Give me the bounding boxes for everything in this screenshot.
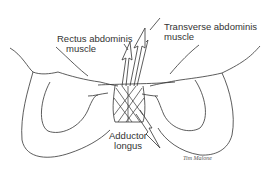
left-pelvis-outer: [22, 72, 110, 157]
adductor-label: Adductor longus: [109, 131, 147, 151]
transverse-leader: [150, 18, 160, 30]
right-iliac-crest: [150, 46, 260, 86]
symphysis-left: [113, 86, 115, 122]
transverse-label: Transverse abdominis muscle: [164, 22, 257, 42]
right-obturator: [155, 80, 205, 131]
pubic-bar-top: [98, 82, 175, 85]
crosshatch: [114, 86, 144, 122]
right-pelvis-outer: [158, 73, 233, 155]
anatomy-diagram: Rectus abdominis muscle Transverse abdom…: [0, 0, 270, 172]
artist-signature: Tim Malone: [183, 155, 212, 161]
transverse-label-line2: muscle: [164, 32, 257, 42]
left-inner-curve: [88, 93, 108, 96]
right-inner-line: [170, 45, 199, 74]
rectus-label-line2: muscle: [57, 44, 133, 54]
rectus-label: Rectus abdominis muscle: [57, 34, 133, 54]
adductor-label-line2: longus: [109, 141, 147, 151]
left-obturator: [41, 82, 98, 132]
